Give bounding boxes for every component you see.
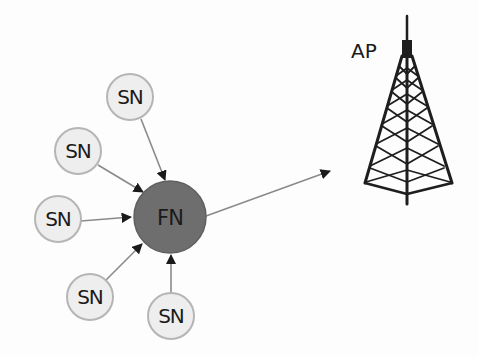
sensor-node: SN (148, 293, 194, 339)
sensor-node-label: SN (65, 139, 91, 163)
network-diagram: SN SN SN SN SN FN AP (0, 0, 478, 356)
sensor-node: SN (55, 128, 101, 174)
fog-node-label: FN (157, 206, 183, 230)
sensor-node: SN (67, 274, 113, 320)
sensor-node: SN (107, 74, 153, 120)
sensor-node-label: SN (45, 207, 71, 231)
fog-node: FN (134, 181, 206, 253)
edge-sn4-fn (106, 244, 142, 280)
edge-sn1-fn (141, 119, 165, 180)
access-point-label: AP (351, 39, 377, 63)
sensor-node-label: SN (158, 304, 184, 328)
sensor-node-label: SN (77, 285, 103, 309)
edge-sn2-fn (98, 165, 143, 192)
edge-sn3-fn (81, 217, 131, 221)
edges (81, 119, 330, 293)
sensor-node-label: SN (117, 85, 143, 109)
radio-tower-icon (365, 16, 452, 204)
edge-fn-ap (206, 171, 330, 216)
sensor-node: SN (35, 196, 81, 242)
